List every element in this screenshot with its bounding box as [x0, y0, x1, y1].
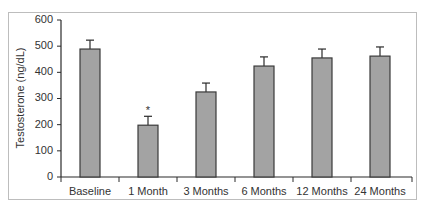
significance-marker: *: [146, 104, 151, 116]
y-tick-label: 0: [47, 170, 53, 182]
bar: [370, 56, 390, 177]
y-tick-label: 300: [35, 91, 53, 103]
x-tick-label: 12 Months: [296, 185, 348, 197]
bar: [312, 58, 332, 177]
bar: [196, 92, 216, 177]
y-tick-label: 200: [35, 118, 53, 130]
bar: [80, 49, 100, 177]
bar-group: [254, 57, 274, 177]
x-tick-label: 1 Month: [128, 185, 168, 197]
bar-group: [196, 83, 216, 177]
x-tick-label: Baseline: [69, 185, 111, 197]
bar-group: [80, 40, 100, 177]
y-tick-label: 600: [35, 13, 53, 25]
testosterone-bar-chart: 0100200300400500600 Baseline1 Month3 Mon…: [0, 0, 431, 211]
y-axis: 0100200300400500600: [35, 13, 61, 182]
bar-group: [370, 47, 390, 177]
y-axis-label: Testosterone (ng/dL): [14, 48, 26, 149]
x-tick-label: 24 Months: [354, 185, 406, 197]
y-tick-label: 100: [35, 144, 53, 156]
bar: [254, 66, 274, 177]
bar-group: *: [138, 104, 158, 177]
y-tick-label: 500: [35, 39, 53, 51]
x-tick-label: 6 Months: [241, 185, 287, 197]
y-tick-label: 400: [35, 65, 53, 77]
x-tick-label: 3 Months: [183, 185, 229, 197]
bar-group: [312, 49, 332, 177]
bar: [138, 125, 158, 177]
bars: *: [80, 40, 390, 177]
x-axis: Baseline1 Month3 Months6 Months12 Months…: [61, 177, 412, 197]
